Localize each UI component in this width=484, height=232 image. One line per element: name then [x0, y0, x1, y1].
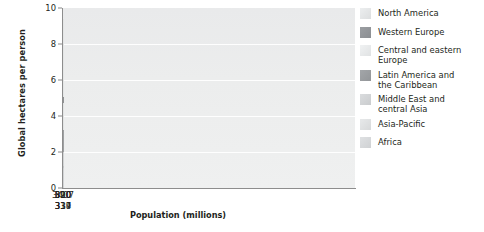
legend-swatch-icon [360, 119, 371, 130]
y-tick-label: 6 [36, 75, 56, 85]
y-tick-label: 10 [36, 3, 56, 13]
legend-swatch-icon [360, 137, 371, 148]
y-axis-title: Global hectares per person [17, 18, 27, 168]
gridline [63, 116, 355, 117]
legend-item-latin-america-and-the-caribbean[interactable]: Latin America and the Caribbean [360, 70, 454, 90]
y-tick-label: 4 [36, 111, 56, 121]
legend-label: Central and eastern Europe [378, 45, 461, 65]
legend-swatch-icon [360, 45, 371, 56]
legend-label: Latin America and the Caribbean [378, 70, 454, 90]
legend-label: North America [378, 8, 439, 18]
y-tick-label: 2 [36, 147, 56, 157]
legend-swatch-icon [360, 8, 371, 19]
x-axis-title: Population (millions) [0, 210, 356, 220]
legend-item-middle-east-and-central-asia[interactable]: Middle East and central Asia [360, 94, 445, 114]
legend-item-north-america[interactable]: North America [360, 8, 439, 19]
x-tick-label: 810 [55, 190, 71, 200]
legend-label: Africa [378, 137, 402, 147]
y-axis-ticks: 0246810 [36, 8, 62, 188]
gridline [63, 152, 355, 153]
legend-swatch-icon [360, 27, 371, 38]
gridline [63, 80, 355, 81]
bar-africa [63, 168, 64, 188]
y-tick-label: 8 [36, 39, 56, 49]
legend-swatch-icon [360, 70, 371, 81]
legend-item-central-and-eastern-europe[interactable]: Central and eastern Europe [360, 45, 461, 65]
legend-label: Asia-Pacific [378, 119, 425, 129]
legend-swatch-icon [360, 94, 371, 105]
legend-label: Western Europe [378, 27, 444, 37]
gridline [63, 44, 355, 45]
plot-area [63, 8, 355, 188]
chart-figure: Global hectares per person 0246810 31939… [0, 0, 484, 232]
legend-item-western-europe[interactable]: Western Europe [360, 27, 444, 38]
legend-label: Middle East and central Asia [378, 94, 445, 114]
legend-item-asia-pacific[interactable]: Asia-Pacific [360, 119, 425, 130]
legend-item-africa[interactable]: Africa [360, 137, 402, 148]
